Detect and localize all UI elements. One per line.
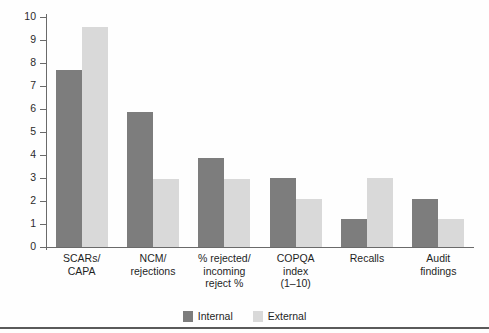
bar-internal <box>127 112 153 247</box>
bar-internal <box>412 199 438 247</box>
x-axis-line <box>46 247 474 248</box>
bar-chart-figure: 012345678910 SCARs/ CAPANCM/ rejections%… <box>0 0 489 333</box>
x-axis-category-label: NCM/ rejections <box>117 252 188 290</box>
chart-legend: InternalExternal <box>0 310 489 322</box>
legend-swatch-external <box>253 311 263 322</box>
y-axis-tick-label: 5 <box>30 125 36 138</box>
legend-label: Internal <box>198 310 233 322</box>
y-axis-tick-label: 4 <box>30 148 36 161</box>
bar-external <box>367 178 393 247</box>
y-axis-tick-label: 3 <box>30 171 36 184</box>
y-axis-tick: 0 <box>40 247 46 248</box>
y-axis-tick-label: 7 <box>30 79 36 92</box>
bar-group <box>189 17 260 247</box>
y-axis-tick-label: 9 <box>30 33 36 46</box>
bar-groups <box>46 17 474 247</box>
bar-group <box>403 17 474 247</box>
y-axis-tick-label: 10 <box>24 10 36 23</box>
x-axis-category-label: Audit findings <box>403 252 474 290</box>
bar-external <box>82 27 108 247</box>
bar-internal <box>56 70 82 247</box>
bar-internal <box>270 178 296 247</box>
y-axis-tick-label: 8 <box>30 56 36 69</box>
bar-group <box>331 17 402 247</box>
legend-item-external: External <box>253 310 307 322</box>
y-axis-tick-label: 1 <box>30 217 36 230</box>
legend-swatch-internal <box>183 311 193 322</box>
legend-label: External <box>268 310 307 322</box>
y-axis-tick-label: 2 <box>30 194 36 207</box>
figure-bottom-rule <box>0 327 489 329</box>
x-axis-category-label: % rejected/ incoming reject % <box>189 252 260 290</box>
y-axis-tick-label: 0 <box>30 240 36 253</box>
bar-internal <box>341 219 367 247</box>
bar-group <box>117 17 188 247</box>
x-axis-category-labels: SCARs/ CAPANCM/ rejections% rejected/ in… <box>46 252 474 290</box>
bar-group <box>260 17 331 247</box>
x-axis-category-label: COPQA index (1–10) <box>260 252 331 290</box>
x-axis-category-label: SCARs/ CAPA <box>46 252 117 290</box>
bar-group <box>46 17 117 247</box>
x-axis-category-label: Recalls <box>331 252 402 290</box>
bar-external <box>296 199 322 247</box>
bar-external <box>224 179 250 247</box>
bar-external <box>153 179 179 247</box>
legend-item-internal: Internal <box>183 310 233 322</box>
bar-internal <box>198 158 224 247</box>
bar-external <box>438 219 464 247</box>
y-axis-tick-label: 6 <box>30 102 36 115</box>
